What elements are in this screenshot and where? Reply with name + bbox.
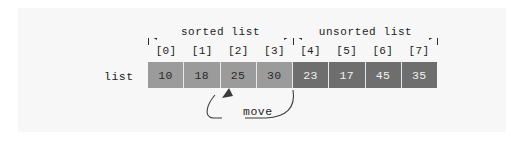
array-cell-4: 23 xyxy=(293,62,329,88)
array-index-2: [2] xyxy=(220,45,256,60)
array-cell-6: 45 xyxy=(366,62,402,88)
bracket-unsorted-list: unsorted list xyxy=(293,28,438,46)
array-cell-2: 25 xyxy=(221,62,257,88)
bracket-sorted-label: sorted list xyxy=(148,26,293,38)
array-index-row: [0] [1] [2] [3] [4] [5] [6] [7] xyxy=(148,45,437,60)
bracket-unsorted-label: unsorted list xyxy=(293,26,438,38)
array-cell-7: 35 xyxy=(402,62,437,88)
array-cell-3: 30 xyxy=(257,62,293,88)
array-cell-1: 18 xyxy=(184,62,220,88)
region-bracket-row: sorted list unsorted list xyxy=(0,28,530,46)
move-annotation-label: move xyxy=(243,105,273,118)
array-cell-0: 10 xyxy=(148,62,184,88)
array-index-1: [1] xyxy=(184,45,220,60)
array-index-5: [5] xyxy=(329,45,365,60)
array-index-3: [3] xyxy=(256,45,292,60)
array-cell-row: 10 18 25 30 23 17 45 35 xyxy=(148,62,437,88)
array-index-0: [0] xyxy=(148,45,184,60)
figure-canvas: sorted list unsorted list [0] [1] [2] [3… xyxy=(0,0,530,144)
array-index-4: [4] xyxy=(293,45,329,60)
array-name-label: list xyxy=(104,70,134,83)
bracket-sorted-list: sorted list xyxy=(148,28,293,46)
array-index-6: [6] xyxy=(365,45,401,60)
array-cell-5: 17 xyxy=(329,62,365,88)
array-index-7: [7] xyxy=(401,45,437,60)
